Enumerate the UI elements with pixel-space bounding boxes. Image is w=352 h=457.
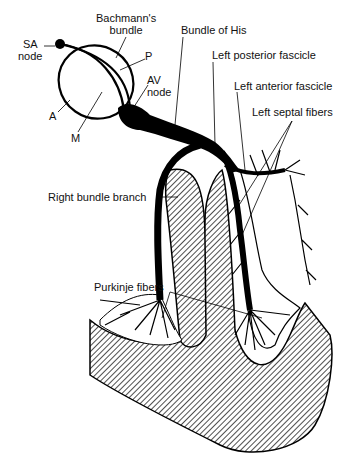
label-av-node: AV node [147, 74, 171, 98]
bundle-of-his [118, 104, 238, 172]
label-p: P [145, 50, 152, 62]
label-right-bundle-branch: Right bundle branch [48, 191, 146, 203]
conduction-diagram [0, 0, 352, 457]
label-av-line2: node [147, 86, 171, 98]
label-bundle-of-his: Bundle of His [181, 24, 246, 36]
label-sa-line2: node [18, 50, 42, 62]
label-a: A [49, 110, 56, 122]
label-purkinje-fibers: Purkinje fibers [94, 281, 164, 293]
label-bachmann-line1: Bachmann's [96, 12, 156, 24]
label-left-septal-fibers: Left septal fibers [252, 106, 333, 118]
label-sa-node: SA node [18, 38, 42, 62]
label-bachmann-line2: bundle [96, 24, 156, 36]
label-bachmann: Bachmann's bundle [96, 12, 156, 36]
label-m: M [71, 132, 80, 144]
label-left-posterior-fascicle: Left posterior fascicle [212, 49, 316, 61]
label-sa-line1: SA [18, 38, 42, 50]
label-left-anterior-fascicle: Left anterior fascicle [234, 80, 332, 92]
sa-node [55, 39, 65, 49]
label-av-line1: AV [147, 74, 171, 86]
